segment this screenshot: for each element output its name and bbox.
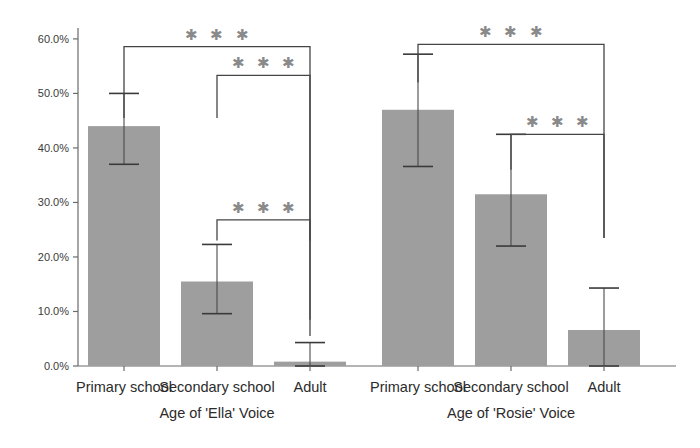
group-label-rosie: Age of 'Rosie' Voice <box>447 405 575 421</box>
x-axis-category-label: Primary school <box>370 379 466 395</box>
y-axis-tick-label: 10.0% <box>38 305 69 317</box>
significance-stars-ella-1: ✱ ✱ ✱ <box>232 54 299 71</box>
y-axis-tick-label: 0.0% <box>44 360 69 372</box>
significance-stars-rosie-0: ✱ ✱ ✱ <box>479 23 546 40</box>
significance-stars-ella-2: ✱ ✱ ✱ <box>232 199 299 216</box>
x-axis-category-label: Primary school <box>76 379 172 395</box>
y-axis-tick-label: 40.0% <box>38 142 69 154</box>
y-axis-tick-label: 60.0% <box>38 33 69 45</box>
x-axis-category-label: Adult <box>293 379 326 395</box>
x-axis-category-label: Secondary school <box>159 379 274 395</box>
x-axis-category-label: Adult <box>587 379 620 395</box>
y-axis-tick-label: 20.0% <box>38 251 69 263</box>
x-axis-category-label: Secondary school <box>453 379 568 395</box>
y-axis-tick-label: 30.0% <box>38 196 69 208</box>
y-axis-tick-label: 50.0% <box>38 87 69 99</box>
significance-stars-rosie-1: ✱ ✱ ✱ <box>526 113 593 130</box>
group-label-ella: Age of 'Ella' Voice <box>159 405 274 421</box>
chart-canvas: 0.0%10.0%20.0%30.0%40.0%50.0%60.0%Primar… <box>0 0 700 448</box>
significance-stars-ella-0: ✱ ✱ ✱ <box>185 26 252 43</box>
grouped-bar-chart: 0.0%10.0%20.0%30.0%40.0%50.0%60.0%Primar… <box>0 0 700 448</box>
